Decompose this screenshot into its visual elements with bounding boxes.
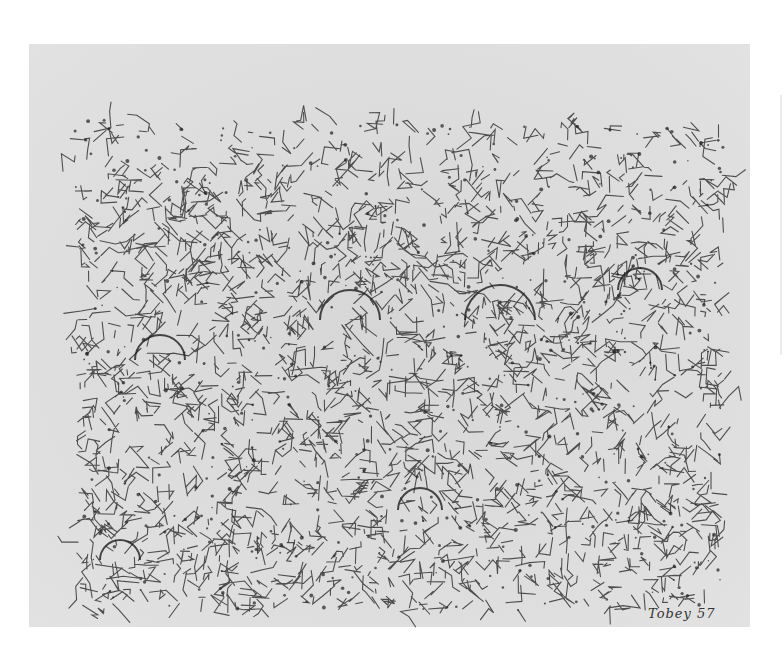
ink-drawing [0, 0, 784, 658]
artist-signature: Tobey 57 [648, 606, 716, 621]
